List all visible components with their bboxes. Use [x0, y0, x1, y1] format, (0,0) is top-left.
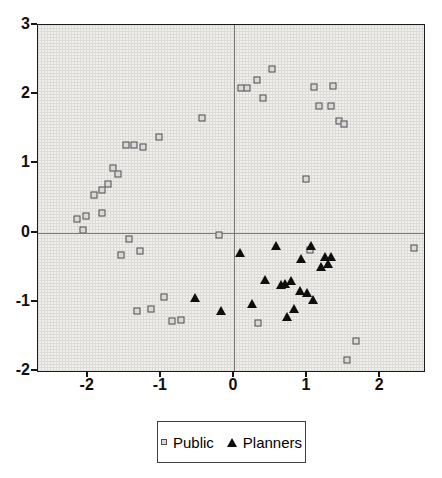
planners-data-point [247, 299, 257, 308]
public-data-point [353, 338, 360, 345]
public-data-point [79, 226, 86, 233]
public-data-point [118, 251, 125, 258]
planners-data-point [271, 241, 281, 250]
y-tick-mark [31, 369, 37, 371]
planners-triangle-marker-icon [227, 438, 237, 447]
scatter-chart-figure: 3210-1-2 -2-1012 Public Planners [0, 0, 442, 478]
y-tick-mark [31, 92, 37, 94]
y-tick-label: -1 [4, 291, 30, 309]
legend-item-public: Public [161, 434, 214, 451]
legend-item-planners: Planners [227, 434, 302, 451]
public-data-point [156, 134, 163, 141]
planners-data-point [235, 248, 245, 257]
planners-data-point [296, 254, 306, 263]
public-data-point [105, 181, 112, 188]
public-square-marker-icon [161, 439, 167, 445]
x-tick-label: -2 [80, 376, 94, 394]
public-data-point [74, 215, 81, 222]
public-data-point [140, 144, 147, 151]
y-tick-mark [31, 300, 37, 302]
public-data-point [168, 318, 175, 325]
y-tick-label: -2 [4, 361, 30, 379]
public-data-point [255, 320, 262, 327]
public-data-point [302, 176, 309, 183]
public-data-point [122, 142, 129, 149]
public-data-point [148, 305, 155, 312]
public-data-point [260, 95, 267, 102]
public-data-point [134, 307, 141, 314]
public-data-point [114, 171, 121, 178]
x-tick-label: 2 [375, 376, 384, 394]
public-data-point [268, 66, 275, 73]
legend-label-planners: Planners [243, 434, 302, 451]
public-data-point [90, 191, 97, 198]
planners-data-point [286, 276, 296, 285]
planners-data-point [190, 293, 200, 302]
planners-data-point [308, 295, 318, 304]
public-data-point [344, 356, 351, 363]
public-data-point [311, 84, 318, 91]
public-data-point [330, 82, 337, 89]
plot-area [37, 24, 425, 372]
y-tick-label: 2 [4, 84, 30, 102]
planners-data-point [306, 241, 316, 250]
public-data-point [411, 244, 418, 251]
public-data-point [178, 316, 185, 323]
x-tick-label: 0 [228, 376, 237, 394]
planners-data-point [216, 306, 226, 315]
public-data-point [160, 293, 167, 300]
public-data-point [125, 235, 132, 242]
public-data-point [98, 209, 105, 216]
legend-label-public: Public [173, 434, 214, 451]
public-data-point [253, 77, 260, 84]
public-data-point [316, 102, 323, 109]
public-data-point [130, 142, 137, 149]
public-data-point [244, 84, 251, 91]
y-tick-mark [31, 23, 37, 25]
x-zero-gridline [234, 25, 235, 371]
public-data-point [82, 212, 89, 219]
public-data-point [340, 120, 347, 127]
public-data-point [136, 247, 143, 254]
y-tick-mark [31, 161, 37, 163]
public-data-point [328, 102, 335, 109]
x-tick-label: -1 [153, 376, 167, 394]
y-tick-mark [31, 231, 37, 233]
y-tick-label: 3 [4, 15, 30, 33]
y-tick-label: 1 [4, 153, 30, 171]
public-data-point [215, 231, 222, 238]
planners-data-point [282, 312, 292, 321]
planners-data-point [323, 259, 333, 268]
y-zero-gridline [38, 233, 424, 234]
legend: Public Planners [157, 421, 306, 463]
public-data-point [199, 115, 206, 122]
planners-data-point [260, 275, 270, 284]
y-tick-label: 0 [4, 222, 30, 240]
x-tick-label: 1 [302, 376, 311, 394]
